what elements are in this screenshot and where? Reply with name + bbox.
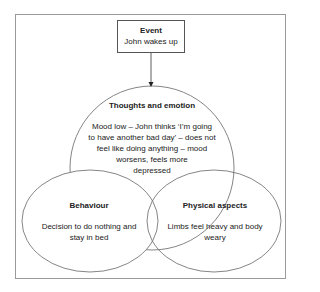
behaviour-title: Behaviour xyxy=(24,200,154,211)
thoughts-title: Thoughts and emotion xyxy=(70,100,234,111)
thoughts-line: feel like doing anything – mood xyxy=(70,143,234,154)
thoughts-line: to have another bad day’ – does not xyxy=(70,132,234,143)
event-title: Event xyxy=(118,25,184,36)
physical-label: Physical aspects Limbs feel heavy and bo… xyxy=(150,200,280,243)
physical-line: Limbs feel heavy and body xyxy=(150,221,280,232)
behaviour-label: Behaviour Decision to do nothing and sta… xyxy=(24,200,154,243)
thoughts-label: Thoughts and emotion Mood low – John thi… xyxy=(70,100,234,176)
event-box: Event John wakes up xyxy=(117,20,185,53)
behaviour-line: Decision to do nothing and xyxy=(24,221,154,232)
event-text: John wakes up xyxy=(118,36,184,47)
physical-title: Physical aspects xyxy=(150,200,280,211)
behaviour-line: stay in bed xyxy=(24,232,154,243)
thoughts-line: depressed xyxy=(70,165,234,176)
thoughts-line: worsens, feels more xyxy=(70,154,234,165)
thoughts-line: Mood low – John thinks ‘I’m going xyxy=(70,121,234,132)
physical-line: weary xyxy=(150,232,280,243)
